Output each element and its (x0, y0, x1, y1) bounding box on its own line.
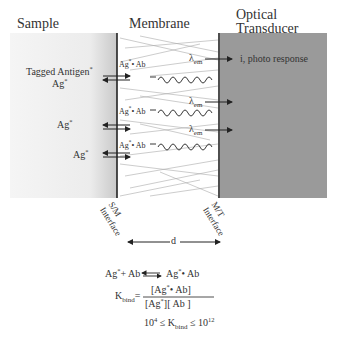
complex-label-3: Ag*• Ab (119, 141, 146, 150)
distance-label: d (171, 235, 176, 246)
ag-label-2: Ag* (57, 119, 72, 130)
emission-waves (150, 77, 212, 150)
tagged-antigen-label: Tagged Antigen* (26, 66, 93, 77)
ag-label-3: Ag* (73, 149, 88, 160)
ag-label-1: Ag* (52, 78, 67, 89)
reaction-right: Ag*• Ab (166, 268, 199, 279)
complex-label-2: Ag*• Ab (119, 107, 146, 116)
sample-region (10, 33, 117, 198)
kbind-numerator: [Ag*• Ab] (151, 284, 191, 295)
kbind-label: Kbind= (115, 290, 140, 301)
photo-response-label: i, photo response (240, 53, 308, 64)
kbind-range: 104 ≤ Kbind ≤ 1012 (144, 317, 214, 328)
kbind-denominator: [Ag*][ Ab ] (145, 298, 190, 309)
reaction-left: Ag*+ Ab (105, 268, 140, 279)
reaction-arrows (142, 273, 161, 276)
lambda-em-label-1: λem (189, 52, 202, 63)
lambda-em-label-2: λem (189, 95, 202, 106)
complex-label-1: Ag*• Ab (119, 60, 146, 69)
lambda-em-label-3: λem (189, 123, 202, 134)
